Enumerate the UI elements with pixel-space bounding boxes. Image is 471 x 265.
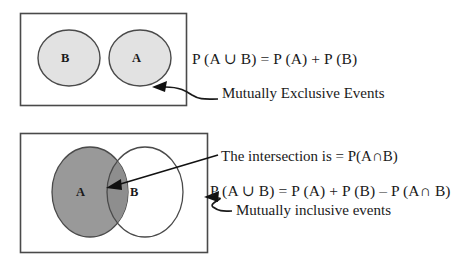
formula-mutually-exclusive: P (A ∪ B) = P (A) + P (B) [192, 51, 357, 67]
caption-intersection: The intersection is = P(A∩B) [221, 149, 398, 164]
set-label-b-bottom: B [130, 186, 138, 199]
set-label-a-top: A [132, 52, 141, 65]
panel-mutually-exclusive [21, 14, 219, 106]
venn-diagram-figure: B A P (A ∪ B) = P (A) + P (B) Mutually E… [0, 0, 471, 265]
formula-mutually-inclusive: P (A ∪ B) = P (A) + P (B) – P (A∩ B) [210, 183, 451, 199]
caption-mutually-exclusive: Mutually Exclusive Events [222, 86, 384, 101]
set-label-a-bottom: A [76, 186, 85, 199]
panel-mutually-inclusive [21, 134, 233, 253]
caption-mutually-inclusive: Mutually inclusive events [236, 203, 391, 218]
diagram-vector-layer [0, 0, 471, 265]
set-label-b-top: B [61, 52, 69, 65]
